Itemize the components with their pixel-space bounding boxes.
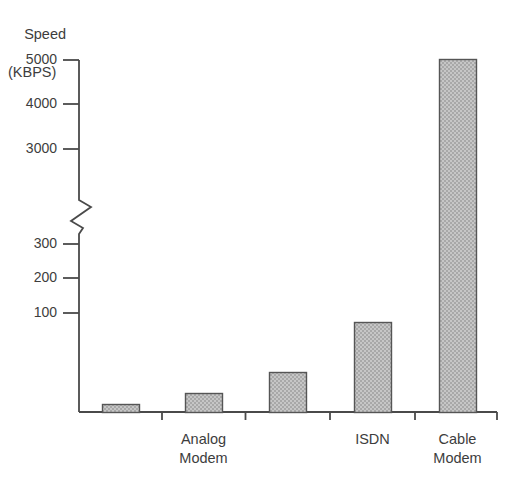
y-tick-label-300: 300 — [1, 235, 57, 251]
y-tick-label-100: 100 — [1, 304, 57, 320]
category-label-5: CableModem — [398, 430, 509, 468]
category-label-line2: Modem — [398, 449, 509, 468]
y-tick-label-3000: 3000 — [1, 140, 57, 156]
category-label-line1: Cable — [398, 430, 509, 449]
category-label-line1: Analog — [144, 430, 264, 449]
category-label-2: AnalogModem — [144, 430, 264, 468]
bar-series — [103, 60, 477, 421]
bar-3 — [270, 373, 307, 413]
bar-1 — [103, 405, 140, 413]
bar-5 — [440, 60, 477, 413]
plot-area — [0, 0, 509, 480]
bar-4 — [355, 323, 392, 413]
y-tick-label-200: 200 — [1, 269, 57, 285]
axis-ticks — [63, 60, 79, 313]
y-tick-label-5000: 5000 — [1, 51, 57, 67]
y-tick-label-4000: 4000 — [1, 95, 57, 111]
bar-2 — [186, 394, 223, 413]
axis-lines — [71, 60, 497, 420]
category-label-line2: Modem — [144, 449, 264, 468]
bar-chart: Speed (KBPS) 500040003000300200100 Analo… — [0, 0, 509, 480]
